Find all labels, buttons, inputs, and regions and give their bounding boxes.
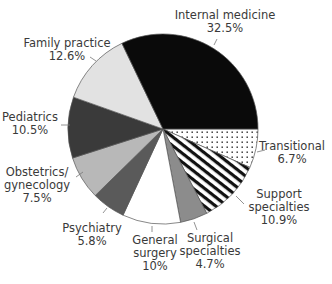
leader-line bbox=[236, 196, 244, 204]
pie-chart: Transitional6.7%Supportspecialties10.9%S… bbox=[0, 0, 332, 284]
slice-label-transitional: Transitional6.7% bbox=[258, 139, 325, 166]
pie-slices bbox=[68, 34, 258, 224]
slice-label-internal-medicine: Internal medicine32.5% bbox=[175, 8, 276, 35]
slice-label-obstetrics-gynecology: Obstetrics/gynecology7.5% bbox=[4, 165, 70, 205]
slice-label-general-surgery: Generalsurgery10% bbox=[132, 233, 177, 273]
slice-label-surgical-specialties: Surgicalspecialties4.7% bbox=[180, 231, 241, 271]
leader-line bbox=[90, 57, 96, 61]
leader-line bbox=[103, 208, 107, 213]
slice-label-support-specialties: Supportspecialties10.9% bbox=[249, 187, 310, 227]
slice-label-pediatrics: Pediatrics10.5% bbox=[2, 110, 58, 137]
leader-line bbox=[214, 39, 217, 45]
leader-line bbox=[194, 222, 197, 230]
slice-label-psychiatry: Psychiatry5.8% bbox=[62, 221, 122, 248]
slice-label-family-practice: Family practice12.6% bbox=[23, 36, 110, 63]
